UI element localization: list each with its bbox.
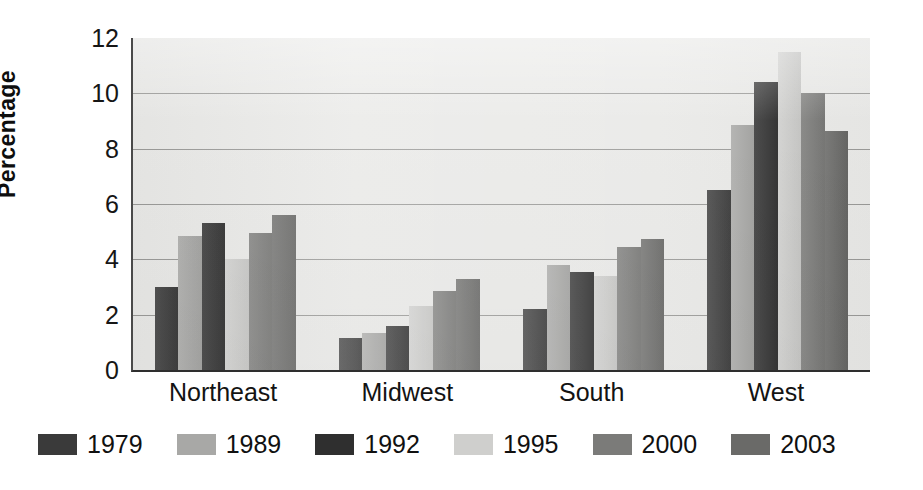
y-axis-tick-10: 10 — [83, 81, 119, 106]
bar-texture — [825, 131, 849, 370]
legend-swatch-1989 — [177, 434, 216, 455]
x-axis-tick-northeast: Northeast — [131, 378, 315, 407]
bar-northeast-2003 — [272, 215, 296, 370]
bar-west-1995 — [778, 52, 802, 370]
y-axis-tick-12: 12 — [83, 26, 119, 51]
bar-texture — [202, 223, 226, 370]
y-axis-tick-0: 0 — [83, 358, 119, 383]
bar-texture — [225, 259, 249, 370]
bar-texture — [523, 309, 547, 370]
bar-west-1992 — [754, 82, 778, 370]
bar-texture — [272, 215, 296, 370]
bar-texture — [433, 291, 457, 370]
bar-texture — [778, 52, 802, 370]
bar-texture — [456, 279, 480, 370]
chart-figure: Percentage 024681012 NortheastMidwestSou… — [0, 0, 923, 490]
bar-texture — [707, 190, 731, 370]
bar-northeast-1989 — [178, 236, 202, 370]
bar-south-1979 — [523, 309, 547, 370]
bar-group-northeast — [155, 38, 296, 370]
bar-midwest-1992 — [386, 326, 410, 370]
legend-label-1979: 1979 — [87, 432, 143, 457]
bar-west-1989 — [731, 125, 755, 370]
x-axis-tick-west: West — [684, 378, 868, 407]
bar-west-2000 — [801, 93, 825, 370]
bar-texture — [594, 276, 618, 370]
y-axis-title: Percentage — [0, 70, 21, 198]
bar-midwest-1995 — [409, 306, 433, 370]
legend-item-1989[interactable]: 1989 — [177, 432, 282, 457]
bar-texture — [801, 93, 825, 370]
legend-label-2003: 2003 — [780, 432, 836, 457]
bar-texture — [570, 272, 594, 370]
legend-label-1995: 1995 — [503, 432, 559, 457]
bar-west-2003 — [825, 131, 849, 370]
bar-texture — [339, 338, 363, 370]
legend-item-2000[interactable]: 2000 — [593, 432, 698, 457]
x-axis-tick-south: South — [500, 378, 684, 407]
bar-group-south — [523, 38, 664, 370]
bar-west-1979 — [707, 190, 731, 370]
chart-legend: 197919891992199520002003 — [38, 432, 870, 457]
legend-label-1992: 1992 — [364, 432, 420, 457]
bar-texture — [409, 306, 433, 370]
legend-label-2000: 2000 — [642, 432, 698, 457]
legend-item-2003[interactable]: 2003 — [731, 432, 836, 457]
legend-label-1989: 1989 — [226, 432, 282, 457]
bar-texture — [641, 239, 665, 370]
bar-south-2000 — [617, 247, 641, 370]
x-axis-tick-midwest: Midwest — [315, 378, 499, 407]
bar-texture — [754, 82, 778, 370]
legend-swatch-1992 — [315, 434, 354, 455]
bar-midwest-1989 — [362, 333, 386, 370]
bar-northeast-1995 — [225, 259, 249, 370]
legend-swatch-2000 — [593, 434, 632, 455]
legend-swatch-1979 — [38, 434, 77, 455]
y-axis-tick-2: 2 — [83, 302, 119, 327]
bar-group-midwest — [339, 38, 480, 370]
bar-texture — [386, 326, 410, 370]
bar-group-west — [707, 38, 848, 370]
legend-swatch-2003 — [731, 434, 770, 455]
bar-texture — [731, 125, 755, 370]
bar-texture — [249, 233, 273, 370]
y-axis-tick-6: 6 — [83, 192, 119, 217]
bar-texture — [178, 236, 202, 370]
bar-south-1995 — [594, 276, 618, 370]
bar-midwest-2000 — [433, 291, 457, 370]
bar-south-1989 — [547, 265, 571, 370]
bar-south-1992 — [570, 272, 594, 370]
bar-texture — [547, 265, 571, 370]
bar-texture — [617, 247, 641, 370]
y-axis-tick-8: 8 — [83, 136, 119, 161]
y-axis-tick-4: 4 — [83, 247, 119, 272]
plot-area — [131, 38, 870, 372]
bar-northeast-1992 — [202, 223, 226, 370]
bar-south-2003 — [641, 239, 665, 370]
bar-northeast-1979 — [155, 287, 179, 370]
legend-swatch-1995 — [454, 434, 493, 455]
legend-item-1979[interactable]: 1979 — [38, 432, 143, 457]
legend-item-1995[interactable]: 1995 — [454, 432, 559, 457]
legend-item-1992[interactable]: 1992 — [315, 432, 420, 457]
bar-midwest-1979 — [339, 338, 363, 370]
bar-midwest-2003 — [456, 279, 480, 370]
bar-texture — [362, 333, 386, 370]
bar-northeast-2000 — [249, 233, 273, 370]
bar-texture — [155, 287, 179, 370]
